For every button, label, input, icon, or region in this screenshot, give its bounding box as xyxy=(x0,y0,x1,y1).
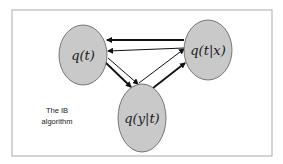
node-q-y-given-t-label: q(y|t) xyxy=(124,111,159,126)
caption-line-2: algorithm xyxy=(42,117,73,126)
node-q-t-label: q(t) xyxy=(71,48,95,63)
ib-algorithm-diagram: q(t) q(t|x) q(y|t) The IB algorithm xyxy=(0,0,283,164)
node-q-t-given-x: q(t|x) xyxy=(184,20,232,80)
node-q-t-given-x-label: q(t|x) xyxy=(190,43,225,58)
caption-line-1: The IB xyxy=(46,106,68,115)
node-q-y-given-t: q(y|t) xyxy=(118,84,166,152)
node-q-t: q(t) xyxy=(59,25,107,85)
